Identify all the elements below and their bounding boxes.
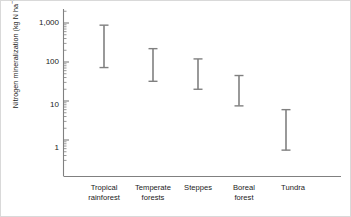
x-category-label-boreal-forest: Boreal forest <box>216 183 272 202</box>
error-bar <box>100 25 109 67</box>
error-bar <box>149 49 158 82</box>
figure-container: Nitrogen mineralization (kg N ha−1 a−1) … <box>0 0 351 217</box>
y-axis-ticks <box>64 11 70 160</box>
x-category-line: forest <box>216 193 272 203</box>
error-bar <box>194 59 203 89</box>
error-bar <box>282 110 291 150</box>
x-category-line: forests <box>122 193 184 203</box>
x-category-line: Boreal <box>216 183 272 193</box>
error-bar <box>235 76 244 106</box>
x-category-line: Tundra <box>265 183 321 193</box>
error-bar-group <box>100 25 291 150</box>
x-category-label-tundra: Tundra <box>265 183 321 193</box>
